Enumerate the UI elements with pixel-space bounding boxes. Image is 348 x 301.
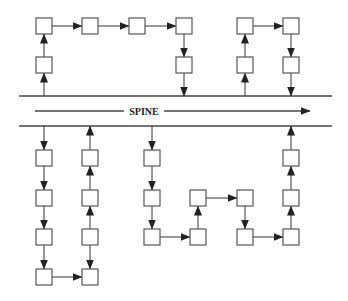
node-box-t1	[36, 57, 52, 73]
node-box-t6	[176, 57, 192, 73]
node-box-b5	[82, 269, 98, 285]
node-box-b4	[36, 269, 52, 285]
edges	[44, 26, 291, 277]
node-box-b14	[237, 190, 253, 206]
node-box-t9	[283, 18, 299, 34]
spine-diagram: SPINE	[0, 0, 348, 301]
node-box-b10	[144, 190, 160, 206]
node-box-b7	[82, 190, 98, 206]
node-box-b15	[237, 229, 253, 245]
node-box-b11	[144, 229, 160, 245]
node-box-t2	[36, 18, 52, 34]
node-box-t8	[237, 18, 253, 34]
node-box-t5	[176, 18, 192, 34]
node-box-b1	[36, 150, 52, 166]
node-box-b12	[190, 229, 206, 245]
spine-rails: SPINE	[19, 96, 332, 126]
node-box-b17	[283, 190, 299, 206]
node-box-t4	[129, 18, 145, 34]
node-box-b9	[144, 150, 160, 166]
node-box-b16	[283, 229, 299, 245]
node-box-t3	[82, 18, 98, 34]
spine-label: SPINE	[129, 106, 159, 117]
node-box-t7	[237, 57, 253, 73]
node-box-b13	[190, 190, 206, 206]
node-box-b2	[36, 190, 52, 206]
nodes	[36, 18, 299, 285]
node-box-b3	[36, 229, 52, 245]
node-box-b18	[283, 150, 299, 166]
node-box-b8	[82, 150, 98, 166]
node-box-t10	[283, 57, 299, 73]
node-box-b6	[82, 229, 98, 245]
